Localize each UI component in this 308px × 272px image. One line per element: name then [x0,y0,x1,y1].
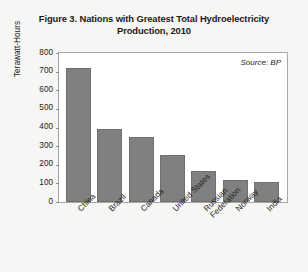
chart-title: Figure 3. Nations with Greatest Total Hy… [14,13,294,38]
bar-slot-china [63,53,94,202]
x-slot-united-states: United States [157,204,189,270]
figure-container: Figure 3. Nations with Greatest Total Hy… [0,0,308,272]
x-axis-labels: China Brazil Canada United States Russia… [58,204,288,270]
x-slot-norway: Norway [220,204,252,270]
y-tick-label-700: 700 [39,66,53,75]
bar-slot-brazil [94,53,125,202]
bar-slot-united-states [157,53,188,202]
y-axis-title: Terawatt-Hours [12,0,22,99]
bar-canada[interactable] [129,137,154,202]
bar-brazil[interactable] [97,129,122,202]
bar-slot-canada [126,53,157,202]
y-tick-label-400: 400 [39,122,53,131]
x-slot-canada: Canada [125,204,157,270]
x-slot-russian-federation: Russian Federation [188,204,220,270]
chart-title-line-2: Production, 2010 [14,25,294,37]
x-slot-india: India [251,204,283,270]
x-slot-brazil: Brazil [94,204,126,270]
y-tick-label-100: 100 [39,178,53,187]
y-tick-label-500: 500 [39,103,53,112]
chart-title-line-1: Figure 3. Nations with Greatest Total Hy… [14,13,294,25]
bar-china[interactable] [66,68,91,202]
y-tick-label-800: 800 [39,48,53,57]
y-tick-label-600: 600 [39,85,53,94]
y-tick-label-200: 200 [39,159,53,168]
bar-slot-india [251,53,282,202]
y-tick-label-0: 0 [48,197,53,206]
y-tick-label-300: 300 [39,141,53,150]
x-slot-china: China [62,204,94,270]
